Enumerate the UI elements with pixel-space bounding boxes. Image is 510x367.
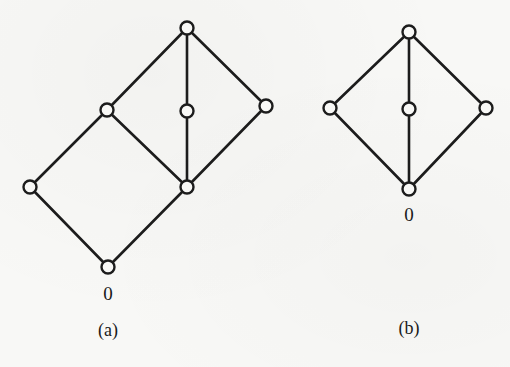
edge-right-lower-right (187, 106, 266, 187)
node-center (403, 103, 416, 116)
lattice-diagram-b (324, 26, 493, 196)
caption-a: (a) (98, 321, 118, 339)
bottom-element-label-b: 0 (404, 205, 414, 224)
edge-top-right (187, 28, 266, 106)
edge-top-right (409, 32, 486, 108)
lattice-diagrams (0, 0, 510, 367)
node-lower-right (181, 181, 194, 194)
nodes-a (24, 22, 273, 274)
edge-top-left-mid (107, 28, 187, 110)
node-far-left (24, 181, 37, 194)
node-bottom (403, 183, 416, 196)
edge-far-left-bottom (30, 187, 108, 267)
edge-lower-right-bottom (108, 187, 187, 267)
edge-left-bottom (330, 108, 409, 189)
edge-top-left (330, 32, 409, 108)
node-right (480, 102, 493, 115)
bottom-element-label-a: 0 (103, 284, 113, 303)
edges-a (30, 28, 266, 267)
edge-left-mid-far-left (30, 110, 107, 187)
edge-left-mid-lower-right (107, 110, 187, 187)
node-bottom (102, 261, 115, 274)
edge-right-bottom (409, 108, 486, 189)
caption-b: (b) (399, 319, 420, 337)
node-top (403, 26, 416, 39)
lattice-diagram-a (24, 22, 273, 274)
node-left-mid (101, 104, 114, 117)
node-left (324, 102, 337, 115)
node-right (260, 100, 273, 113)
node-center (181, 105, 194, 118)
node-top (181, 22, 194, 35)
